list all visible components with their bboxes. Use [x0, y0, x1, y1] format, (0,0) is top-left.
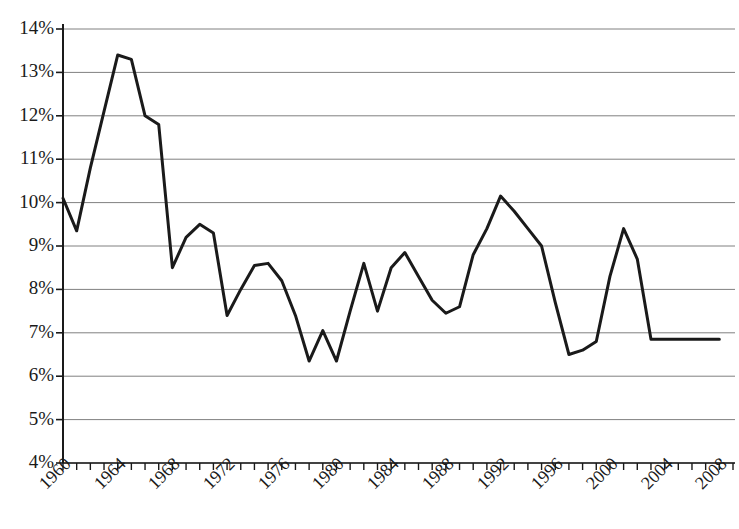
y-tick-label: 6% — [0, 364, 54, 386]
gridlines — [63, 29, 735, 463]
y-axis-ticks — [56, 29, 63, 463]
y-tick-label: 5% — [0, 408, 54, 430]
y-tick-label: 13% — [0, 60, 54, 82]
chart-plot-area — [0, 0, 739, 529]
y-tick-label: 7% — [0, 321, 54, 343]
y-tick-label: 9% — [0, 234, 54, 256]
y-tick-label: 11% — [0, 147, 54, 169]
data-series-line — [63, 55, 719, 361]
line-chart: 14%13%12%11%10%9%8%7%6%5%4% 196019641968… — [0, 0, 739, 529]
y-tick-label: 10% — [0, 191, 54, 213]
y-tick-label: 8% — [0, 277, 54, 299]
y-tick-label: 14% — [0, 17, 54, 39]
y-tick-label: 12% — [0, 104, 54, 126]
